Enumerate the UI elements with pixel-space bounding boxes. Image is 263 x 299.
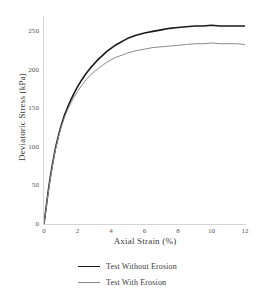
x-tick-label-8: 8 (167, 227, 189, 235)
x-tick-label-4: 4 (100, 227, 122, 235)
x-axis-title: Axial Strain (%) (44, 236, 246, 246)
x-tick-label-2: 2 (67, 227, 89, 235)
legend-item-test-with-erosion: Test With Erosion (0, 274, 263, 290)
x-axis-line (44, 224, 246, 225)
legend-line-icon-series-1 (78, 277, 100, 287)
legend-item-test-without-erosion: Test Without Erosion (0, 258, 263, 274)
y-axis-line (43, 16, 44, 225)
chart-legend: Test Without Erosion Test With Erosion (0, 258, 263, 290)
x-tick-label-0: 0 (33, 227, 55, 235)
legend-line-icon-series-0 (78, 261, 100, 271)
x-tick-label-10: 10 (201, 227, 223, 235)
x-tick-label-6: 6 (134, 227, 156, 235)
y-tick-label-250: 250 (13, 27, 39, 35)
stress-strain-figure: 050100150200250 024681012 Axial Strain (… (0, 0, 263, 299)
legend-label-series-1: Test With Erosion (106, 278, 166, 287)
chart-canvas (44, 16, 245, 224)
series-line-0 (44, 25, 245, 224)
plot-area (44, 16, 245, 224)
y-axis-title: Deviatoric Stress (kPa) (17, 42, 27, 192)
x-tick-label-12: 12 (234, 227, 256, 235)
legend-label-series-0: Test Without Erosion (106, 262, 177, 271)
series-line-1 (44, 43, 245, 224)
